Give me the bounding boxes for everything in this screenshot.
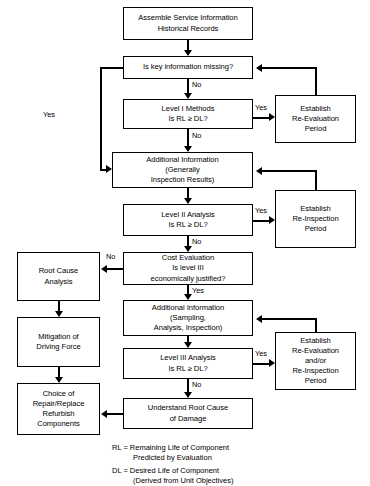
- arrowhead-understand-to-choice: [101, 410, 107, 418]
- node-key-info-label: Is key information missing?: [141, 62, 235, 72]
- node-level-iii-analysis: Level III AnalysisIs RL ≥ DL?: [123, 348, 253, 379]
- arrowhead-mitigation-to-choice: [55, 377, 63, 383]
- edge-addlinfo1-to-level2: [187, 188, 189, 198]
- arrowhead-feedback-reeval-to-keyinfo: [256, 64, 262, 72]
- arrowhead-feedback-both-to-addlinfo2: [256, 315, 262, 323]
- arrowhead-addlinfo2-to-level3: [184, 342, 192, 348]
- feedback-both-up: [315, 318, 317, 333]
- node-mitigation-label: Mitigation ofDriving Force: [34, 332, 83, 352]
- edge-label-level2-yes: Yes: [255, 207, 267, 214]
- edge-label-level3-no: No: [192, 381, 201, 388]
- arrowhead-assemble-to-keyinfo: [184, 50, 192, 56]
- node-additional-information-inspection-results: Additional Information(GenerallyInspecti…: [112, 152, 253, 188]
- edge-mitigation-to-choice: [58, 367, 60, 377]
- node-level-ii-analysis: Level II AnalysisIs RL ≥ DL?: [123, 204, 253, 236]
- node-root-cause-label: Root CauseAnalysis: [37, 266, 81, 286]
- node-level1-label: Level I MethodsIs RL ≥ DL?: [160, 104, 217, 124]
- node-addl-info-1-label: Additional Information(GenerallyInspecti…: [144, 155, 220, 185]
- edge-costeval-to-addlinfo2: [187, 285, 189, 294]
- edge-understand-to-choice: [107, 413, 124, 415]
- arrowhead-level1-yes-to-reeval: [269, 113, 275, 121]
- edge-level2-to-costeval: [187, 236, 189, 246]
- node-additional-information-sampling: Additional Information(Sampling,Analysis…: [123, 300, 253, 336]
- node-level2-label: Level II AnalysisIs RL ≥ DL?: [159, 210, 217, 230]
- edge-keyinfo-yes-out: [100, 67, 124, 69]
- edge-level1-to-addlinfo1: [187, 129, 189, 146]
- node-choice-label: Choice ofRepair/ReplaceRefurbishComponen…: [31, 389, 87, 429]
- node-addl-info-2-label: Additional Information(Sampling,Analysis…: [150, 303, 226, 333]
- edge-label-level1-yes: Yes: [255, 104, 267, 111]
- arrowhead-level3-to-understand: [184, 392, 192, 398]
- edge-rootcause-to-mitigation: [58, 301, 60, 311]
- node-establish-both-label: EstablishRe-Evaluationand/orRe-Inspectio…: [290, 336, 341, 386]
- legend-dl-line2: (Derived from Unit Objectives): [133, 476, 233, 486]
- arrowhead-level1-to-addlinfo1: [184, 146, 192, 152]
- node-establish-reinsp-label: EstablishRe-InspectionPeriod: [290, 204, 340, 234]
- arrowhead-rootcause-to-mitigation: [55, 311, 63, 317]
- node-level3-label: Level III AnalysisIs RL ≥ DL?: [158, 353, 218, 373]
- edge-level3-yes-to-both: [253, 363, 269, 365]
- edge-level2-yes-to-reinsp: [253, 220, 269, 222]
- arrowhead-addlinfo1-to-level2: [184, 198, 192, 204]
- arrowhead-level2-to-costeval: [184, 246, 192, 252]
- edge-label-keyinfo-no: No: [192, 81, 201, 88]
- arrowhead-keyinfo-yes-to-addlinfo1: [106, 165, 112, 173]
- node-choice-of-repair-replace: Choice ofRepair/ReplaceRefurbishComponen…: [17, 383, 100, 435]
- node-establish-re-evaluation-period: EstablishRe-EvaluationPeriod: [275, 95, 356, 143]
- edge-costeval-no-to-rootcause: [107, 268, 124, 270]
- arrowhead-level2-yes-to-reinsp: [269, 216, 275, 224]
- edge-label-level2-no: No: [192, 238, 201, 245]
- edge-level1-yes-to-reeval: [253, 117, 269, 119]
- edge-keyinfo-yes-down: [100, 67, 102, 170]
- arrowhead-costeval-no-to-rootcause: [101, 265, 107, 273]
- node-establish-reeval-label: EstablishRe-EvaluationPeriod: [290, 104, 341, 134]
- node-mitigation-of-driving-force: Mitigation ofDriving Force: [17, 317, 100, 367]
- node-is-key-information-missing: Is key information missing?: [123, 56, 253, 79]
- node-level-i-methods: Level I MethodsIs RL ≥ DL?: [123, 99, 253, 129]
- feedback-reinsp-up: [315, 170, 317, 191]
- node-root-cause-analysis: Root CauseAnalysis: [17, 252, 100, 301]
- node-establish-re-evaluation-and-or-re-inspection-period: EstablishRe-Evaluationand/orRe-Inspectio…: [275, 332, 356, 390]
- edge-keyinfo-to-level1: [187, 79, 189, 93]
- arrowhead-costeval-to-addlinfo2: [184, 294, 192, 300]
- node-assemble-service-information: Assemble Service InformationHistorical R…: [123, 7, 253, 40]
- feedback-reeval-up: [315, 67, 317, 96]
- node-understand-label: Understand Root Causeof Damage: [146, 403, 230, 423]
- node-understand-root-cause-of-damage: Understand Root Causeof Damage: [123, 398, 253, 429]
- legend-rl-line2: Predicted by Evaluation: [133, 453, 212, 463]
- node-cost-evaluation: Cost EvaluationIs level IIIeconomically …: [123, 252, 253, 285]
- edge-level3-to-understand: [187, 379, 189, 392]
- edge-label-keyinfo-yes: Yes: [43, 111, 55, 118]
- arrowhead-keyinfo-to-level1: [184, 93, 192, 99]
- arrowhead-feedback-reinsp-to-addlinfo1: [256, 167, 262, 175]
- node-establish-re-inspection-period: EstablishRe-InspectionPeriod: [275, 190, 356, 248]
- legend-dl-line1: DL = Desired Life of Component: [112, 466, 219, 476]
- node-cost-eval-label: Cost EvaluationIs level IIIeconomically …: [149, 253, 228, 283]
- node-assemble-label: Assemble Service InformationHistorical R…: [136, 13, 239, 33]
- edge-label-level3-yes: Yes: [255, 350, 267, 357]
- legend-rl-line1: RL = Remaining Life of Component: [112, 443, 229, 453]
- feedback-reeval-left: [262, 67, 316, 69]
- feedback-both-left: [262, 318, 316, 320]
- edge-label-level1-no: No: [192, 132, 201, 139]
- edge-label-costeval-yes: Yes: [192, 287, 204, 294]
- edge-label-costeval-no: No: [106, 253, 115, 260]
- arrowhead-level3-yes-to-both: [269, 359, 275, 367]
- feedback-reinsp-left: [262, 170, 316, 172]
